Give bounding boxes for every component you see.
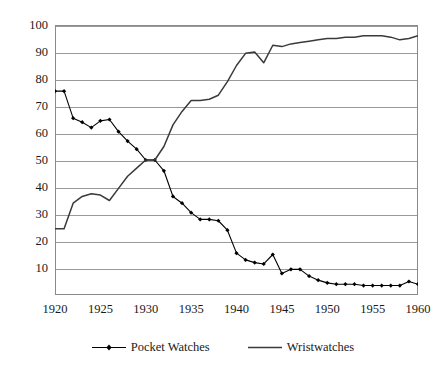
data-point-marker (207, 217, 211, 221)
y-tick-label: 80 (8, 73, 48, 86)
series-layer (55, 25, 418, 295)
line-chart: 102030405060708090100 192019251930193519… (0, 0, 446, 365)
y-tick-label: 100 (8, 19, 48, 32)
x-tick-label: 1930 (121, 303, 171, 316)
data-point-marker (253, 261, 257, 265)
data-point-marker (416, 282, 418, 286)
y-tick-label: 90 (8, 46, 48, 59)
data-point-marker (407, 279, 411, 283)
x-tick-label: 1935 (166, 303, 216, 316)
legend-item-wristwatches: Wristwatches (248, 340, 355, 355)
y-tick-label: 10 (8, 262, 48, 275)
legend-marker-line-icon (92, 342, 126, 353)
data-point-marker (71, 116, 75, 120)
legend-label: Pocket Watches (131, 340, 210, 355)
data-point-marker (352, 282, 356, 286)
data-point-marker (316, 278, 320, 282)
x-tick-label: 1945 (257, 303, 307, 316)
series-wristwatches (55, 36, 418, 229)
data-point-marker (334, 282, 338, 286)
data-point-marker (361, 283, 365, 287)
y-tick-label: 40 (8, 181, 48, 194)
x-tick-label: 1950 (302, 303, 352, 316)
data-point-marker (280, 271, 284, 275)
x-tick-label: 1920 (30, 303, 80, 316)
data-point-marker (325, 281, 329, 285)
data-point-marker (62, 89, 66, 93)
data-point-marker (343, 282, 347, 286)
data-point-marker (371, 283, 375, 287)
data-point-marker (380, 283, 384, 287)
x-tick-label: 1955 (348, 303, 398, 316)
y-tick-label: 30 (8, 208, 48, 221)
data-point-marker (398, 283, 402, 287)
series-line (55, 36, 418, 229)
x-tick-label: 1940 (212, 303, 262, 316)
x-tick-label: 1925 (75, 303, 125, 316)
y-tick-label: 20 (8, 235, 48, 248)
data-point-marker (389, 283, 393, 287)
legend-line-icon (248, 342, 282, 353)
y-tick-label: 60 (8, 127, 48, 140)
x-tick-label: 1960 (393, 303, 443, 316)
y-tick-label: 70 (8, 100, 48, 113)
chart-legend: Pocket Watches Wristwatches (0, 336, 446, 358)
legend-label: Wristwatches (287, 340, 355, 355)
y-tick-label: 50 (8, 154, 48, 167)
data-point-marker (55, 89, 57, 93)
series-pocket-watches (55, 89, 418, 288)
legend-item-pocket-watches: Pocket Watches (92, 340, 210, 355)
data-point-marker (289, 267, 293, 271)
